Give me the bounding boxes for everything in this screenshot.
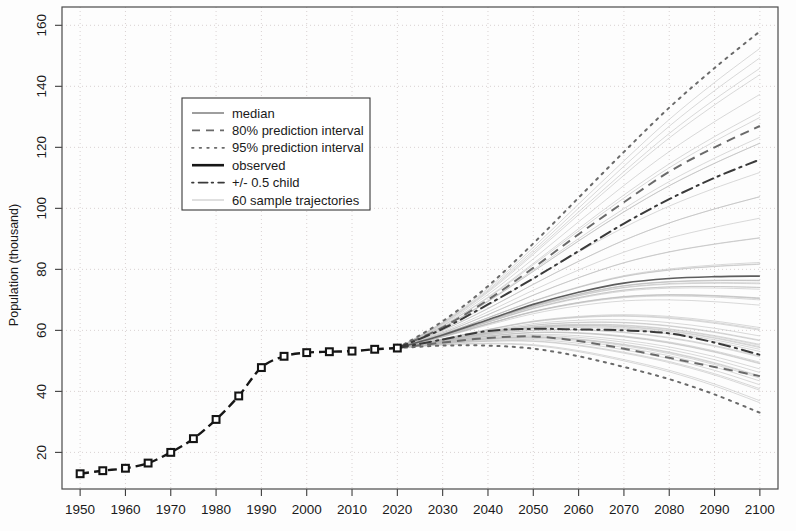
y-tick-label: 80 (34, 262, 49, 277)
observed-point (394, 345, 401, 352)
observed-series (77, 345, 401, 477)
x-tick-label: 2090 (700, 502, 730, 517)
x-tick-label: 1990 (246, 502, 276, 517)
y-tick-label: 20 (34, 445, 49, 460)
series-pi95 (397, 31, 760, 348)
x-tick-label: 1970 (156, 502, 186, 517)
y-tick-label: 120 (34, 136, 49, 159)
y-tick-label: 40 (34, 384, 49, 399)
y-axis-title: Population (thousand) (7, 204, 21, 326)
sample-trajectory (397, 344, 760, 403)
observed-point (371, 346, 378, 353)
observed-point (167, 449, 174, 456)
x-tick-label: 2000 (292, 502, 322, 517)
observed-point (258, 364, 265, 371)
legend-label: observed (232, 158, 285, 173)
x-tick-label: 2050 (518, 502, 548, 517)
legend-label: 60 sample trajectories (232, 193, 360, 208)
sample-trajectories (397, 48, 760, 402)
legend-label: +/- 0.5 child (232, 175, 300, 190)
chart-canvas: 1950196019701980199020002010202020302040… (0, 0, 796, 531)
legend-label: 80% prediction interval (232, 123, 364, 138)
observed-path (80, 348, 397, 474)
x-tick-label: 2040 (473, 502, 503, 517)
observed-point (77, 470, 84, 477)
legend-label: median (232, 106, 275, 121)
sample-trajectory (397, 58, 760, 348)
y-tick-label: 60 (34, 323, 49, 338)
chart-legend: median80% prediction interval95% predict… (182, 98, 370, 210)
legend-label: 95% prediction interval (232, 140, 364, 155)
x-tick-label: 2030 (428, 502, 458, 517)
x-tick-label: 2020 (382, 502, 412, 517)
y-tick-label: 100 (34, 197, 49, 220)
population-projection-figure: 1950196019701980199020002010202020302040… (0, 0, 796, 531)
plot-frame (62, 7, 778, 489)
observed-point (349, 348, 356, 355)
x-tick-label: 2100 (745, 502, 775, 517)
x-tick-label: 2080 (654, 502, 684, 517)
tick-labels: 1950196019701980199020002010202020302040… (34, 14, 775, 517)
observed-point (122, 465, 129, 472)
x-tick-label: 2060 (564, 502, 594, 517)
sample-trajectory (397, 94, 760, 348)
y-tick-label: 160 (34, 14, 49, 37)
x-tick-label: 1960 (110, 502, 140, 517)
observed-point (190, 435, 197, 442)
x-tick-label: 1950 (65, 502, 95, 517)
x-tick-label: 2010 (337, 502, 367, 517)
observed-point (235, 393, 242, 400)
observed-point (303, 349, 310, 356)
x-tick-label: 1980 (201, 502, 231, 517)
gridlines (62, 7, 778, 489)
observed-point (281, 353, 288, 360)
observed-point (145, 460, 152, 467)
observed-point (99, 467, 106, 474)
y-tick-label: 140 (34, 75, 49, 98)
axis-ticks (55, 25, 760, 496)
observed-point (326, 348, 333, 355)
x-tick-label: 2070 (609, 502, 639, 517)
observed-point (213, 416, 220, 423)
